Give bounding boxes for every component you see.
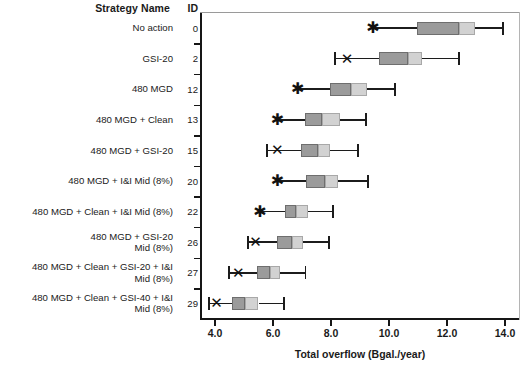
y-axis-tick (194, 43, 201, 45)
x-marker-icon: ✕ (341, 51, 354, 66)
upper-whisker-cap (365, 113, 367, 126)
upper-whisker-cap (332, 205, 334, 218)
category-label-name: 480 MGD (132, 83, 173, 95)
x-axis-tick-label: 8.0 (324, 327, 339, 339)
upper-whisker (303, 241, 329, 243)
category-label-row: 480 MGD + Clean + GSI-40 + I&I Mid (8%)2… (0, 288, 198, 318)
category-label-name: No action (132, 22, 173, 34)
x-marker-icon: ✕ (249, 235, 262, 250)
asterisk-marker-icon: ✱ (366, 20, 379, 36)
box-lower-quartile (379, 52, 408, 65)
upper-whisker (330, 150, 359, 152)
x-axis-tick-label: 6.0 (266, 327, 281, 339)
box-upper-quartile (322, 113, 339, 126)
box-lower-quartile (257, 266, 270, 279)
x-axis-tick (504, 320, 506, 326)
box-lower-quartile (301, 144, 318, 157)
x-axis-tick-label: 12.0 (437, 327, 457, 339)
x-axis-tick (446, 320, 448, 326)
asterisk-marker-icon: ✱ (271, 112, 284, 128)
x-marker-icon: ✕ (210, 296, 223, 311)
category-label-id: 0 (178, 23, 198, 34)
box-upper-quartile (245, 297, 258, 310)
upper-whisker-cap (458, 52, 460, 65)
plot-top-border (200, 12, 520, 13)
y-axis-tick (194, 135, 201, 137)
category-label-id: 29 (178, 298, 198, 309)
upper-whisker-cap (367, 175, 369, 188)
category-label-name: GSI-20 (143, 53, 173, 65)
lower-whisker-cap (334, 52, 336, 65)
upper-whisker (340, 119, 368, 121)
x-axis-title: Total overflow (Bgal./year) (200, 348, 520, 360)
category-label-id: 12 (178, 84, 198, 95)
asterisk-marker-icon: ✱ (271, 173, 284, 189)
x-axis-tick (388, 320, 390, 326)
y-axis-tick (194, 74, 201, 76)
box-lower-quartile (417, 22, 459, 35)
category-label-row: 480 MGD + GSI-2015 (0, 135, 198, 165)
upper-whisker-cap (328, 236, 330, 249)
box-lower-quartile (277, 236, 292, 249)
category-label-row: GSI-202 (0, 44, 198, 74)
upper-whisker-cap (283, 297, 285, 310)
upper-whisker-cap (502, 22, 504, 35)
category-label-name: 480 MGD + Clean (96, 114, 173, 126)
category-label-name: 480 MGD + I&I Mid (8%) (68, 175, 173, 187)
lower-whisker-cap (266, 144, 268, 157)
plot-right-border (519, 12, 520, 320)
upper-whisker-cap (394, 83, 396, 96)
category-label-id: 13 (178, 114, 198, 125)
asterisk-marker-icon: ✱ (253, 204, 266, 220)
category-label-row: 480 MGD + Clean + GSI-20 + I&I Mid (8%)2… (0, 258, 198, 288)
category-label-id: 22 (178, 206, 198, 217)
upper-whisker (475, 27, 504, 29)
category-label-name: 480 MGD + Clean + GSI-40 + I&I Mid (8%) (32, 292, 173, 315)
category-label-column: No action0GSI-202480 MGD12480 MGD + Clea… (0, 16, 198, 318)
category-label-id: 20 (178, 176, 198, 187)
x-marker-icon: ✕ (271, 143, 284, 158)
category-label-id: 15 (178, 145, 198, 156)
category-label-row: 480 MGD + Clean13 (0, 105, 198, 135)
box-upper-quartile (270, 266, 280, 279)
y-axis-tick (194, 166, 201, 168)
y-axis-tick (194, 105, 201, 107)
upper-whisker (280, 272, 306, 274)
y-axis-tick (194, 227, 201, 229)
upper-whisker (308, 211, 334, 213)
category-label-name: 480 MGD + Clean + I&I Mid (8%) (32, 206, 173, 218)
x-axis-tick-label: 4.0 (208, 327, 223, 339)
category-label-row: 480 MGD + I&I Mid (8%)20 (0, 166, 198, 196)
upper-whisker-cap (357, 144, 359, 157)
upper-whisker (367, 88, 396, 90)
upper-whisker-cap (305, 266, 307, 279)
upper-whisker (259, 303, 285, 305)
upper-whisker (338, 180, 368, 182)
category-label-row: 480 MGD + GSI-20 Mid (8%)26 (0, 227, 198, 257)
asterisk-marker-icon: ✱ (291, 81, 304, 97)
category-label-name: 480 MGD + Clean + GSI-20 + I&I Mid (8%) (32, 261, 173, 284)
box-plot-chart: Strategy Name ID No action0GSI-202480 MG… (0, 0, 527, 368)
box-lower-quartile (330, 83, 352, 96)
category-label-row: No action0 (0, 13, 198, 43)
lower-whisker-cap (228, 266, 230, 279)
y-axis-tick (194, 258, 201, 260)
category-label-row: 480 MGD12 (0, 74, 198, 104)
box-lower-quartile (285, 205, 297, 218)
upper-whisker (422, 58, 460, 60)
y-axis-tick (194, 196, 201, 198)
x-axis-tick (272, 320, 274, 326)
box-lower-quartile (232, 297, 245, 310)
category-label-id: 2 (178, 53, 198, 64)
x-axis-tick (330, 320, 332, 326)
box-upper-quartile (351, 83, 367, 96)
x-axis-tick (214, 320, 216, 326)
x-marker-icon: ✕ (232, 265, 245, 280)
box-upper-quartile (292, 236, 304, 249)
box-upper-quartile (296, 205, 308, 218)
category-label-name: 480 MGD + GSI-20 Mid (8%) (91, 231, 173, 254)
category-label-row: 480 MGD + Clean + I&I Mid (8%)22 (0, 197, 198, 227)
box-upper-quartile (459, 22, 475, 35)
y-axis-tick (194, 288, 201, 290)
x-axis-tick-label: 10.0 (379, 327, 399, 339)
